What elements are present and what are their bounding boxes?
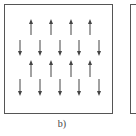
arrow-up-icon	[88, 19, 92, 35]
arrow-down-icon	[18, 79, 22, 96]
arrow-up-icon	[29, 60, 33, 77]
arrow-down-icon	[58, 79, 62, 96]
arrow-down-icon	[77, 40, 81, 56]
arrow-up-icon	[29, 19, 33, 35]
arrow-down-icon	[38, 40, 42, 56]
arrow-down-icon	[97, 40, 101, 56]
arrow-up-icon	[69, 19, 73, 35]
arrow-down-icon	[58, 40, 62, 56]
arrow-field	[0, 0, 136, 136]
arrow-up-icon	[69, 60, 73, 77]
arrow-up-icon	[49, 60, 53, 77]
arrow-down-icon	[77, 79, 81, 96]
arrow-down-icon	[38, 79, 42, 96]
arrow-up-icon	[49, 19, 53, 35]
figure-caption: b)	[52, 118, 72, 129]
arrow-down-icon	[18, 40, 22, 56]
arrow-down-icon	[97, 79, 101, 96]
arrow-up-icon	[88, 60, 92, 77]
